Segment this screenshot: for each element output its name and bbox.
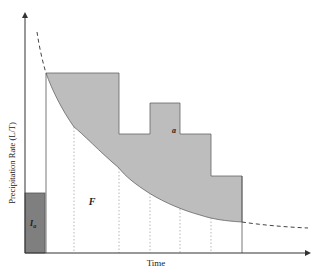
infiltration-curve-start-dashed [37,32,46,73]
diagram-canvas: Precipitation Rate (L/T) Time F a Ia [0,0,320,279]
runoff-label: a [172,126,176,135]
infiltration-label: F [88,196,96,207]
infiltration-curve-end-dashed [242,222,308,228]
y-axis-label: Precipitation Rate (L/T) [7,122,17,204]
x-axis-label: Time [147,258,166,268]
excess-precipitation-area [46,73,242,222]
hyetograph-figure: Precipitation Rate (L/T) Time F a Ia [0,0,320,279]
